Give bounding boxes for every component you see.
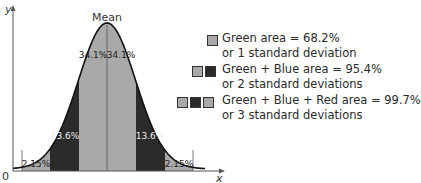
mean-label: Mean	[92, 11, 122, 24]
region-label-middle-right: 13.6%	[136, 131, 165, 141]
shaded-regions	[22, 0, 193, 171]
x-axis-label: x	[215, 172, 223, 183]
region-label-inner-right: 34.1%	[107, 50, 136, 60]
origin-label: 0	[2, 170, 9, 183]
region-label-middle-left: 13.6%	[51, 131, 80, 141]
y-axis-label: y	[4, 3, 12, 16]
region-label-outer-right: 2.15%	[165, 159, 194, 169]
region-outer-right	[165, 0, 193, 171]
region-label-inner-left: 34.1%	[79, 50, 108, 60]
region-label-outer-left: 2.15%	[22, 159, 51, 169]
region-middle-left	[50, 0, 79, 171]
region-outer-left	[22, 0, 50, 171]
region-inner-left	[79, 0, 107, 171]
